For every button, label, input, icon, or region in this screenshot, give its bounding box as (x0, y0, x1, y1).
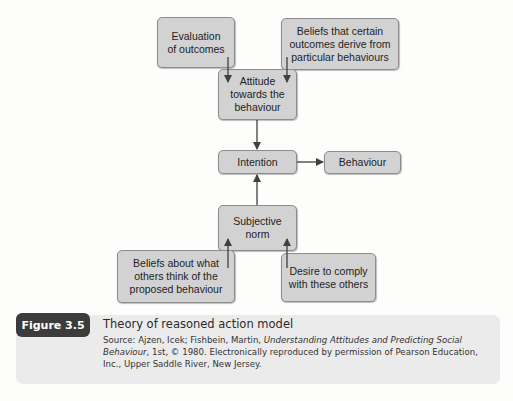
source-suffix: , 1st, © 1980. Electronically reproduced… (103, 347, 478, 369)
source-prefix: Source: Ajzen, Icek; Fishbein, Martin, (103, 335, 264, 345)
figure-label-badge: Figure 3.5 (16, 313, 90, 337)
figure-title: Theory of reasoned action model (103, 317, 293, 331)
figure-source: Source: Ajzen, Icek; Fishbein, Martin, U… (103, 334, 493, 370)
